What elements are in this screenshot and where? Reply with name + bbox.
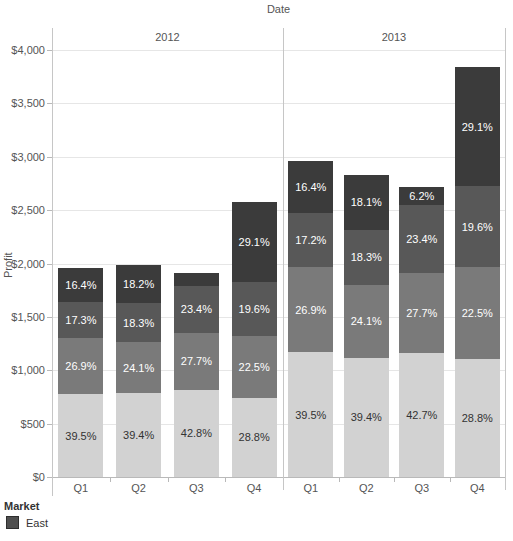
x-tick-label-2013-Q3: Q3 [402,482,442,494]
bar-segment-2013-Q2-0[interactable]: 39.4% [344,358,389,477]
y-tick-label: $1,500 [0,311,45,323]
bar-segment-2012-Q2-3[interactable]: 18.2% [116,265,161,304]
bar-segment-2012-Q4-0[interactable]: 28.8% [232,398,277,477]
bar-segment-2012-Q3-2[interactable]: 23.4% [174,286,219,334]
y-tick-label: $0 [0,471,45,483]
bar-segment-2012-Q2-1[interactable]: 24.1% [116,342,161,393]
bar-segment-2013-Q1-2[interactable]: 17.2% [288,213,333,267]
bar-segment-2012-Q2-0[interactable]: 39.4% [116,393,161,477]
y-tick-label: $1,000 [0,364,45,376]
bar-segment-2013-Q2-1[interactable]: 24.1% [344,285,389,358]
x-axis-line [52,477,505,478]
bar-2012-Q1[interactable]: 39.5%26.9%17.3%16.4% [58,268,103,477]
gridline [52,157,505,158]
bar-segment-2012-Q2-2[interactable]: 18.3% [116,303,161,342]
segment-percent-label: 18.3% [116,317,161,329]
bar-segment-2012-Q1-1[interactable]: 26.9% [58,338,103,394]
bar-2012-Q2[interactable]: 39.4%24.1%18.3%18.2% [116,265,161,477]
x-tick-label-2012-Q4: Q4 [234,482,274,494]
x-tick-label-2012-Q3: Q3 [176,482,216,494]
x-tick [168,477,169,482]
bar-segment-2013-Q2-3[interactable]: 18.1% [344,175,389,230]
x-tick-label-2012-Q2: Q2 [119,482,159,494]
segment-percent-label: 22.5% [455,307,500,319]
bar-segment-2013-Q3-0[interactable]: 42.7% [399,353,444,477]
legend-entry-east[interactable]: East [4,516,124,529]
x-tick [225,477,226,482]
header-year-2013: 2013 [283,28,505,47]
x-tick-label-2013-Q2: Q2 [346,482,386,494]
bar-segment-2013-Q3-1[interactable]: 27.7% [399,273,444,353]
segment-percent-label: 19.6% [455,221,500,233]
y-tick-label: $3,000 [0,151,45,163]
bar-segment-2012-Q1-3[interactable]: 16.4% [58,268,103,302]
bar-segment-2013-Q4-0[interactable]: 28.8% [455,359,500,477]
legend-title: Market [4,500,124,512]
bar-2013-Q1[interactable]: 39.5%26.9%17.2%16.4% [288,161,333,477]
bar-segment-2012-Q3-1[interactable]: 27.7% [174,333,219,389]
y-tick-label: $2,000 [0,258,45,270]
segment-percent-label: 19.6% [232,303,277,315]
bar-segment-2012-Q1-2[interactable]: 17.3% [58,302,103,338]
bar-segment-2013-Q1-0[interactable]: 39.5% [288,352,333,477]
segment-percent-label: 39.4% [116,429,161,441]
segment-percent-label: 29.1% [455,121,500,133]
bar-2012-Q3[interactable]: 42.8%27.7%23.4% [174,273,219,477]
bar-segment-2013-Q1-1[interactable]: 26.9% [288,267,333,352]
segment-percent-label: 24.1% [116,362,161,374]
legend-swatch-east-icon [6,516,19,529]
segment-percent-label: 29.1% [232,236,277,248]
segment-percent-label: 42.8% [174,427,219,439]
segment-percent-label: 22.5% [232,361,277,373]
bar-segment-2013-Q4-2[interactable]: 19.6% [455,186,500,266]
segment-percent-label: 18.1% [344,196,389,208]
x-tick [450,477,451,482]
segment-percent-label: 28.8% [232,431,277,443]
x-tick [110,477,111,482]
bar-segment-2013-Q2-2[interactable]: 18.3% [344,230,389,285]
x-tick-label-2013-Q4: Q4 [457,482,497,494]
segment-percent-label: 23.4% [174,303,219,315]
segment-percent-label: 17.2% [288,234,333,246]
segment-percent-label: 27.7% [174,355,219,367]
segment-percent-label: 6.2% [399,190,444,202]
plot-right-border [505,28,506,490]
gridline [52,50,505,51]
bar-2013-Q3[interactable]: 42.7%27.7%23.4%6.2% [399,187,444,477]
segment-percent-label: 16.4% [58,279,103,291]
segment-percent-label: 18.2% [116,278,161,290]
x-tick-label-2013-Q1: Q1 [291,482,331,494]
bar-segment-2012-Q4-2[interactable]: 19.6% [232,282,277,336]
segment-percent-label: 18.3% [344,251,389,263]
bar-segment-2013-Q3-3[interactable]: 6.2% [399,187,444,205]
segment-percent-label: 42.7% [399,409,444,421]
segment-percent-label: 39.5% [58,430,103,442]
x-tick-label-2012-Q1: Q1 [61,482,101,494]
y-tick-label: $4,000 [0,44,45,56]
bar-2012-Q4[interactable]: 28.8%22.5%19.6%29.1% [232,202,277,477]
segment-percent-label: 26.9% [58,360,103,372]
y-axis-line [52,28,53,496]
bar-segment-2013-Q3-2[interactable]: 23.4% [399,205,444,273]
bar-segment-2012-Q3-0[interactable]: 42.8% [174,390,219,477]
bar-2013-Q2[interactable]: 39.4%24.1%18.3%18.1% [344,175,389,477]
bar-2013-Q4[interactable]: 28.8%22.5%19.6%29.1% [455,67,500,477]
segment-percent-label: 28.8% [455,412,500,424]
x-tick [394,477,395,482]
legend-entry-label: East [26,517,48,529]
segment-percent-label: 26.9% [288,304,333,316]
segment-percent-label: 17.3% [58,314,103,326]
bar-segment-2013-Q4-3[interactable]: 29.1% [455,67,500,186]
legend: Market East [4,500,124,529]
bar-segment-2013-Q1-3[interactable]: 16.4% [288,161,333,213]
y-tick-label: $500 [0,418,45,430]
header-year-2012: 2012 [52,28,283,47]
bar-segment-2012-Q4-1[interactable]: 22.5% [232,336,277,398]
bar-segment-2012-Q1-0[interactable]: 39.5% [58,394,103,477]
x-tick [339,477,340,482]
bar-segment-2013-Q4-1[interactable]: 22.5% [455,267,500,359]
y-tick-label: $3,500 [0,97,45,109]
bar-segment-2012-Q4-3[interactable]: 29.1% [232,202,277,282]
bar-segment-2012-Q3-3[interactable] [174,273,219,285]
chart-canvas: Date Profit $0$500$1,000$1,500$2,000$2,5… [0,0,513,541]
